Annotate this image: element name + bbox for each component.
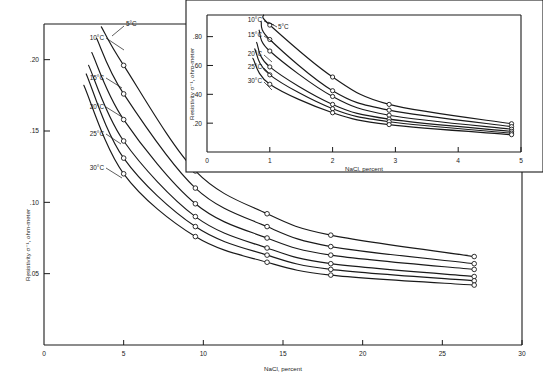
data-point [121,92,126,97]
data-point [329,273,334,278]
data-point [387,123,391,127]
data-point [331,89,335,93]
x-tick-label: 15 [279,350,287,357]
main-y-ticks [44,60,50,274]
x-tick-label: 2 [331,157,335,164]
data-point [265,236,270,241]
curve-label-10°C: 10°C [248,16,263,23]
data-point [265,253,270,258]
data-point [329,233,334,238]
main-x-ticks [124,340,522,345]
y-tick-label: .10 [30,199,39,206]
x-tick-label: 5 [122,350,126,357]
data-point [193,201,198,206]
x-tick-label: 30 [518,350,526,357]
y-tick-label: .80 [193,33,202,40]
inset-background-panel [186,0,543,172]
data-point [472,283,477,288]
data-point [193,186,198,191]
data-point [331,107,335,111]
curve-label-20°C: 20°C [90,103,105,110]
curve-label-leader [106,38,124,50]
data-point [387,108,391,112]
data-point [331,111,335,115]
data-point [121,117,126,122]
x-tick-label: 5 [519,157,523,164]
data-point [193,214,198,219]
curve-label-leader [112,26,124,36]
data-point [472,261,477,266]
inset-y-axis-label: Resistivity σ⁻¹, ohm-meter [188,48,195,120]
data-point [268,65,272,69]
curve-label-25°C: 25°C [248,63,263,70]
resistivity-figure: 051015202530 .05.10.15.20 NaCl, percent … [0,0,543,385]
figure-canvas: 051015202530 .05.10.15.20 NaCl, percent … [0,0,543,385]
main-y-axis-label: Resistivity σ⁻¹, ohm-meter [24,209,31,281]
curve-label-leader [106,134,121,144]
main-x-axis-label: NaCl, percent [264,365,302,372]
y-tick-label: .15 [30,127,39,134]
x-tick-label: 20 [359,350,367,357]
data-point [268,49,272,53]
y-tick-label: .20 [30,56,39,63]
data-point [331,75,335,79]
data-point [265,260,270,265]
data-point [121,139,126,144]
data-point [193,224,198,229]
data-point [193,234,198,239]
data-point [472,254,477,259]
main-curve-labels: 5°C10°C15°C20°C25°C30°C [90,20,137,178]
data-point [329,261,334,266]
curve-label-5°C: 5°C [278,23,289,30]
y-tick-label: .05 [30,270,39,277]
x-tick-label: 3 [394,157,398,164]
data-point [265,224,270,229]
curve-label-leader [106,168,122,178]
x-tick-label: 0 [205,157,209,164]
curve-label-leader [106,78,122,88]
curve-label-30°C: 30°C [90,164,105,171]
curve-label-20°C: 20°C [248,50,263,57]
data-point [268,82,272,86]
data-point [509,133,513,137]
data-point [121,172,126,177]
x-tick-label: 0 [42,350,46,357]
data-point [265,246,270,251]
curve-label-5°C: 5°C [126,20,137,27]
curve-label-25°C: 25°C [90,130,105,137]
curve-label-10°C: 10°C [90,34,105,41]
x-tick-label: 4 [456,157,460,164]
data-point [329,244,334,249]
x-tick-label: 1 [268,157,272,164]
x-tick-label: 25 [439,350,447,357]
x-tick-label: 10 [200,350,208,357]
data-point [121,63,126,68]
data-point [331,94,335,98]
main-y-tick-labels: .05.10.15.20 [30,56,39,277]
inset-x-axis-label: NaCl, percent [345,165,383,172]
curve-label-15°C: 15°C [90,74,105,81]
data-point [472,267,477,272]
data-point [265,211,270,216]
data-point [387,102,391,106]
data-point [331,102,335,106]
curve-label-15°C: 15°C [248,31,263,38]
data-point [329,253,334,258]
curve-label-30°C: 30°C [248,77,263,84]
inset-chart: 012345 .20.40.60.80 NaCl, percent Resist… [186,0,543,172]
data-point [329,267,334,272]
data-point [121,156,126,161]
curve-label-leader [106,107,122,117]
main-x-tick-labels: 051015202530 [42,350,526,357]
